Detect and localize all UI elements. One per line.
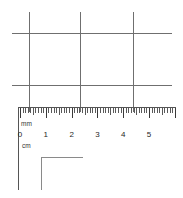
ruler-cm-label-5: 5 — [147, 131, 151, 138]
ruler-tick-medium — [85, 108, 86, 115]
ruler-tick-major — [72, 108, 73, 118]
ruler-tick-major — [97, 108, 98, 118]
grid-vertical-line-3 — [133, 12, 134, 112]
ruler-tick-minor — [105, 108, 106, 113]
ruler-tick-minor — [38, 108, 39, 113]
ruler-mm-label: mm — [21, 120, 32, 127]
ruler-tick-minor — [146, 108, 147, 113]
ruler-tick-minor — [100, 108, 101, 113]
grid-horizontal-line-2 — [12, 85, 172, 86]
grid-vertical-line-2 — [80, 12, 81, 112]
ruler-tick-medium — [33, 108, 34, 115]
ruler-tick-minor — [134, 108, 135, 113]
ruler-tick-minor — [87, 108, 88, 113]
ruler-left-edge — [18, 107, 19, 190]
ruler-tick-minor — [121, 108, 122, 113]
ruler-tick-minor — [164, 108, 165, 113]
ruler-cm-label: cm — [22, 142, 31, 149]
ruler-measurement-figure: mm cm 012345 — [0, 0, 183, 198]
ruler-tick-minor — [79, 108, 80, 113]
ruler-tick-minor — [74, 108, 75, 113]
ruler-cm-label-2: 2 — [69, 131, 73, 138]
ruler-tick-minor — [61, 108, 62, 113]
ruler-tick-minor — [144, 108, 145, 113]
ruler-tick-minor — [23, 108, 24, 113]
ruler-tick-minor — [108, 108, 109, 113]
ruler-cm-label-0: 0 — [18, 131, 22, 138]
ruler-tick-minor — [69, 108, 70, 113]
ruler-tick-minor — [48, 108, 49, 113]
ruler-tick-minor — [167, 108, 168, 113]
ruler-tick-major — [46, 108, 47, 118]
ruler-tick-minor — [103, 108, 104, 113]
ruler-tick-major — [149, 108, 150, 118]
ruler-tick-minor — [43, 108, 44, 113]
ruler-tick-minor — [152, 108, 153, 113]
ruler-tick-minor — [128, 108, 129, 113]
ruler-tick-minor — [118, 108, 119, 113]
ruler-cm-label-3: 3 — [95, 131, 99, 138]
ruler-tick-minor — [54, 108, 55, 113]
ruler-tick-medium — [110, 108, 111, 115]
ruler-tick-minor — [92, 108, 93, 113]
ruler-tick-minor — [159, 108, 160, 113]
corner-bracket-vertical — [41, 157, 42, 190]
ruler-cm-label-1: 1 — [44, 131, 48, 138]
ruler-tick-minor — [41, 108, 42, 113]
ruler-tick-minor — [95, 108, 96, 113]
ruler-tick-medium — [59, 108, 60, 115]
ruler-tick-minor — [51, 108, 52, 113]
ruler-tick-medium — [162, 108, 163, 115]
ruler-tick-minor — [126, 108, 127, 113]
ruler-tick-minor — [141, 108, 142, 113]
ruler-tick-minor — [35, 108, 36, 113]
ruler-tick-minor — [113, 108, 114, 113]
ruler-tick-major — [123, 108, 124, 118]
ruler-tick-major — [20, 108, 21, 118]
ruler-tick-minor — [131, 108, 132, 113]
ruler-tick-minor — [25, 108, 26, 113]
ruler-tick-minor — [66, 108, 67, 113]
ruler-cm-label-4: 4 — [121, 131, 125, 138]
ruler-tick-medium — [136, 108, 137, 115]
ruler-tick-minor — [172, 108, 173, 113]
ruler-tick-minor — [56, 108, 57, 113]
ruler-tick-minor — [28, 108, 29, 113]
ruler-tick-minor — [115, 108, 116, 113]
ruler-tick-minor — [82, 108, 83, 113]
ruler-tick-major — [175, 108, 176, 118]
ruler-tick-minor — [90, 108, 91, 113]
corner-bracket-horizontal — [41, 157, 83, 158]
ruler-tick-minor — [77, 108, 78, 113]
grid-vertical-line-1 — [29, 12, 30, 112]
ruler-tick-minor — [30, 108, 31, 113]
ruler-tick-minor — [139, 108, 140, 113]
grid-horizontal-line-1 — [12, 33, 172, 34]
ruler-tick-minor — [154, 108, 155, 113]
ruler-tick-minor — [64, 108, 65, 113]
ruler-tick-minor — [170, 108, 171, 113]
ruler-tick-minor — [157, 108, 158, 113]
